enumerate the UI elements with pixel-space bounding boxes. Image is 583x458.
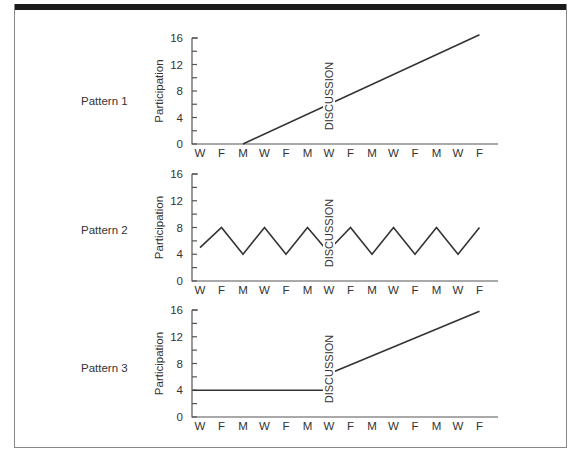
x-tick-label: F: [411, 420, 418, 432]
x-tick-label: F: [476, 147, 483, 159]
data-line: [334, 228, 479, 255]
y-axis-label: Participation: [153, 196, 165, 259]
x-tick-label: M: [432, 284, 442, 296]
y-tick-label: 16: [170, 304, 183, 316]
x-tick-label: W: [388, 420, 399, 432]
x-tick-label: F: [411, 147, 418, 159]
y-tick-label: 0: [177, 138, 183, 150]
data-line: [334, 311, 479, 371]
x-tick-label: M: [367, 147, 377, 159]
discussion-annotation: DISCUSSION: [323, 62, 335, 131]
y-axis-label: Participation: [153, 332, 165, 395]
x-tick-label: M: [303, 284, 313, 296]
x-tick-label: M: [238, 420, 248, 432]
x-tick-label: W: [259, 284, 270, 296]
y-tick-label: 8: [177, 85, 183, 97]
x-tick-label: M: [367, 284, 377, 296]
x-tick-label: W: [259, 420, 270, 432]
x-tick-label: W: [324, 420, 335, 432]
pattern-label: Pattern 2: [81, 224, 128, 236]
x-tick-label: W: [453, 147, 464, 159]
x-tick-label: F: [218, 420, 225, 432]
y-tick-label: 12: [170, 331, 183, 343]
x-tick-label: W: [388, 147, 399, 159]
x-tick-label: W: [324, 147, 335, 159]
axes: [192, 174, 498, 281]
x-tick-label: W: [259, 147, 270, 159]
x-tick-label: F: [411, 284, 418, 296]
axes: [192, 38, 498, 144]
y-tick-label: 12: [170, 195, 183, 207]
y-tick-label: 12: [170, 59, 183, 71]
data-line: [200, 228, 326, 255]
data-line: [243, 35, 480, 144]
x-tick-label: W: [195, 420, 206, 432]
y-tick-label: 4: [177, 384, 184, 396]
x-tick-label: F: [282, 420, 289, 432]
x-tick-label: W: [195, 147, 206, 159]
pattern-charts: Pattern 1Participation0481216WFMWFMWFMWF…: [0, 0, 583, 458]
x-tick-label: F: [347, 420, 354, 432]
x-tick-label: W: [453, 420, 464, 432]
x-tick-label: F: [282, 147, 289, 159]
x-tick-label: M: [303, 147, 313, 159]
y-tick-label: 4: [177, 112, 184, 124]
y-tick-label: 16: [170, 32, 183, 44]
x-tick-label: F: [218, 147, 225, 159]
x-tick-label: M: [238, 284, 248, 296]
x-tick-label: M: [432, 147, 442, 159]
x-tick-label: M: [432, 420, 442, 432]
x-tick-label: F: [476, 284, 483, 296]
y-tick-label: 8: [177, 222, 183, 234]
y-tick-label: 16: [170, 168, 183, 180]
axes: [192, 310, 498, 417]
x-tick-label: F: [218, 284, 225, 296]
discussion-annotation: DISCUSSION: [323, 199, 335, 268]
x-tick-label: F: [347, 147, 354, 159]
x-tick-label: F: [476, 420, 483, 432]
y-tick-label: 8: [177, 358, 183, 370]
y-tick-label: 4: [177, 248, 184, 260]
y-axis-label: Participation: [153, 59, 165, 122]
y-tick-label: 0: [177, 275, 183, 287]
x-tick-label: M: [238, 147, 248, 159]
x-tick-label: W: [195, 284, 206, 296]
x-tick-label: F: [347, 284, 354, 296]
x-tick-label: M: [367, 420, 377, 432]
x-tick-label: F: [282, 284, 289, 296]
x-tick-label: M: [303, 420, 313, 432]
x-tick-label: W: [453, 284, 464, 296]
x-tick-label: W: [388, 284, 399, 296]
discussion-annotation: DISCUSSION: [323, 335, 335, 404]
y-tick-label: 0: [177, 411, 183, 423]
pattern-label: Pattern 3: [81, 362, 128, 374]
pattern-label: Pattern 1: [81, 95, 128, 107]
x-tick-label: W: [324, 284, 335, 296]
